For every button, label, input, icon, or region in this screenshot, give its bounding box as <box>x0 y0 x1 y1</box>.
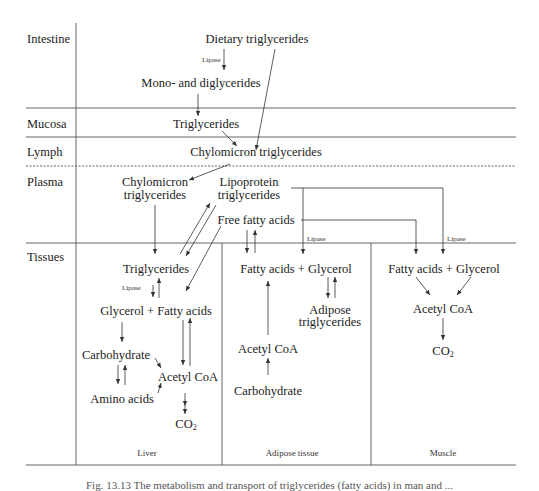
node-liver-triglycerides: Triglycerides <box>123 262 189 276</box>
tissue-title-adipose: Adipose tissue <box>266 446 319 460</box>
row-label-tissues: Tissues <box>27 250 64 264</box>
node-liver-glycerol-fatty-acids: Glycerol + Fatty acids <box>100 304 212 318</box>
label-lipase-intestine: Lipase <box>202 56 221 64</box>
node-lipoprotein-line1: Lipoprotein <box>219 175 278 189</box>
node-liver-amino-acids: Amino acids <box>90 392 154 406</box>
node-mucosa-triglycerides: Triglycerides <box>173 117 239 131</box>
node-liver-carbohydrate: Carbohydrate <box>82 348 150 362</box>
node-muscle-co2: CO2 <box>432 344 453 362</box>
figure-caption: Fig. 13.13 The metabolism and transport … <box>0 479 539 491</box>
co2-base: CO <box>175 417 192 431</box>
node-plasma-chylomicron-line1: Chylomicron <box>122 175 188 189</box>
co2-subscript: 2 <box>193 423 197 432</box>
node-adipose-fatty-acids-glycerol: Fatty acids + Glycerol <box>240 262 352 276</box>
row-label-mucosa: Mucosa <box>27 117 67 131</box>
node-adipose-carbohydrate: Carbohydrate <box>234 384 302 398</box>
row-label-intestine: Intestine <box>27 32 70 46</box>
label-lipase-muscle: Lipase <box>447 235 466 243</box>
label-lipase-adipose: Lipase <box>307 235 326 243</box>
node-lymph-chylomicron-triglycerides: Chylomicron triglycerides <box>190 145 322 159</box>
node-adipose-acetyl-coa: Acetyl CoA <box>238 342 298 356</box>
node-muscle-acetyl-coa: Acetyl CoA <box>413 302 473 316</box>
tissue-title-muscle: Muscle <box>430 446 457 460</box>
node-liver-co2: CO2 <box>175 417 196 435</box>
node-mono-diglycerides: Mono- and diglycerides <box>141 76 260 90</box>
node-lipoprotein-line2: triglycerides <box>218 188 280 202</box>
node-free-fatty-acids: Free fatty acids <box>217 213 294 227</box>
row-label-plasma: Plasma <box>27 175 63 189</box>
label-lipase-liver: Lipase <box>122 284 141 292</box>
tissue-title-liver: Liver <box>137 446 157 460</box>
co2-subscript: 2 <box>450 350 454 359</box>
node-muscle-fatty-acids-glycerol: Fatty acids + Glycerol <box>388 262 500 276</box>
node-liver-acetyl-coa: Acetyl CoA <box>158 370 218 384</box>
node-plasma-chylomicron-line2: triglycerides <box>124 188 186 202</box>
node-dietary-triglycerides: Dietary triglycerides <box>205 32 308 46</box>
row-label-lymph: Lymph <box>27 145 62 159</box>
node-adipose-triglycerides-line2: triglycerides <box>299 315 361 329</box>
co2-base: CO <box>432 344 449 358</box>
